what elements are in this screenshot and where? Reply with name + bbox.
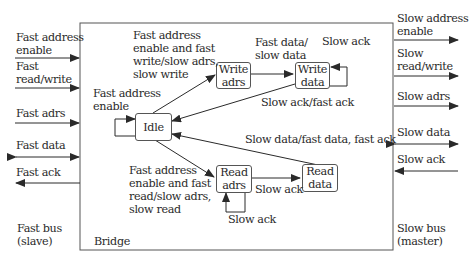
fast-ack-label: Fast ack <box>16 166 60 179</box>
fast-address-enable-label: Fast address enable <box>16 31 84 57</box>
idle-to-write-adrs-label: Fast address enable and fast write/slow … <box>133 29 218 81</box>
idle-self-loop-label: Fast address enable <box>93 87 161 113</box>
slow-data-label: Slow data <box>397 126 450 139</box>
state-write-data: Write data <box>295 62 330 89</box>
fast-read-write-label: Fast read/write <box>16 60 72 86</box>
state-read-data: Read data <box>302 164 338 192</box>
slow-read-write-label: Slow read/write <box>397 47 453 73</box>
state-write-adrs: Write adrs <box>216 62 251 89</box>
state-idle: Idle <box>135 113 172 141</box>
read-adrs-to-read-data-label: Slow ack <box>255 183 303 196</box>
idle-to-read-adrs-label: Fast address enable and fast read/slow a… <box>129 164 211 216</box>
write-data-self-loop <box>330 67 347 86</box>
idle-self-loop <box>115 119 135 136</box>
write-adrs-to-write-data-label: Fast data/ slow data <box>255 36 308 62</box>
fast-data-label: Fast data <box>16 139 65 152</box>
state-read-adrs: Read adrs <box>216 165 252 193</box>
read-data-to-idle-label: Slow data/fast data, fast ack <box>245 133 396 146</box>
slow-bus-label: Slow bus (master) <box>397 222 445 248</box>
slow-ack-label: Slow ack <box>397 153 445 166</box>
write-data-to-idle-label: Slow ack/fast ack <box>261 96 354 109</box>
read-adrs-self-loop-label: Slow ack <box>228 213 276 226</box>
slow-adrs-label: Slow adrs <box>397 90 450 103</box>
slow-address-enable-label: Slow address enable <box>397 12 468 38</box>
fast-adrs-label: Fast adrs <box>16 107 65 120</box>
fast-bus-label: Fast bus (slave) <box>17 222 62 248</box>
bridge-label: Bridge <box>94 235 130 248</box>
read-adrs-self-loop <box>226 192 245 212</box>
write-data-self-loop-label: Slow ack <box>322 35 370 48</box>
